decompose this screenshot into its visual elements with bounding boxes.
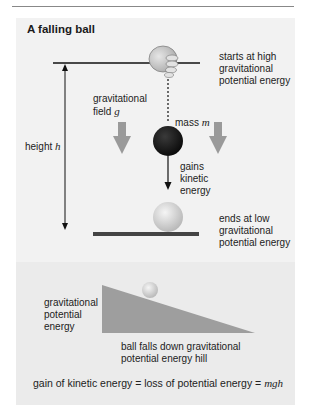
height-label: height h xyxy=(25,140,61,153)
field-arrow-left-icon xyxy=(113,122,131,154)
start-label: starts at high gravitational potential e… xyxy=(219,51,290,87)
end-label: ends at low gravitational potential ener… xyxy=(219,213,290,249)
field-label: gravitational field g xyxy=(93,93,147,118)
gpe-label: gravitational potential energy xyxy=(44,297,98,333)
hill-ball xyxy=(142,282,158,298)
velocity-arrow xyxy=(165,156,172,190)
falling-ball-dark xyxy=(153,126,183,156)
diagram-title: A falling ball xyxy=(27,23,95,35)
hill-caption: ball falls down gravitational potential … xyxy=(121,341,241,365)
ball-at-bottom xyxy=(153,202,183,232)
energy-equation: gain of kinetic energy = loss of potenti… xyxy=(33,377,283,389)
height-arrow xyxy=(62,64,68,230)
hand-icon xyxy=(149,46,178,78)
field-arrow-right-icon xyxy=(209,122,227,154)
kinetic-label: gains kinetic energy xyxy=(180,161,211,197)
ground-bar xyxy=(93,232,199,236)
potential-energy-hill xyxy=(102,285,255,333)
mass-label: mass m xyxy=(175,116,210,129)
